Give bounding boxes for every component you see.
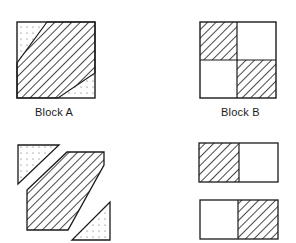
block-a-assembled: [17, 22, 95, 98]
block-b-strip-top-hatched: [199, 143, 239, 182]
block-b-hatched-top-left: [200, 22, 237, 60]
block-b-hatched-bottom-right: [237, 60, 276, 98]
block-b-exploded: [199, 143, 278, 239]
block-a-label: Block A: [35, 106, 73, 118]
block-b-strip-bottom-hatched: [238, 200, 278, 239]
quilt-block-diagram: [0, 0, 296, 243]
block-b-label: Block B: [221, 106, 260, 118]
block-a-exploded: [18, 145, 110, 240]
block-b-assembled: [200, 22, 276, 98]
